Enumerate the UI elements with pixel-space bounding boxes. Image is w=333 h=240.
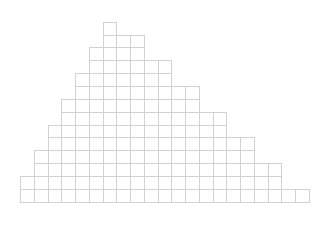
grid-cell [89, 176, 104, 190]
grid-cell [61, 176, 76, 190]
grid-cell [116, 150, 131, 164]
grid-cell [144, 150, 159, 164]
grid-cell [199, 112, 214, 126]
grid-cell [226, 163, 241, 177]
grid-cell [103, 189, 118, 203]
grid-cell [158, 150, 173, 164]
grid-cell [48, 176, 63, 190]
grid-cell [213, 189, 228, 203]
grid-cell [171, 99, 186, 113]
grid-cell [89, 137, 104, 151]
grid-cell [158, 60, 173, 74]
grid-cell [75, 125, 90, 139]
grid-cell [254, 189, 269, 203]
grid-cell [61, 125, 76, 139]
grid-cell [130, 73, 145, 87]
grid-cell [171, 137, 186, 151]
grid-cell [171, 189, 186, 203]
grid-cell [240, 137, 255, 151]
grid-cell [75, 137, 90, 151]
grid-cell [281, 189, 296, 203]
grid-cell [254, 176, 269, 190]
grid-cell [34, 150, 49, 164]
grid-cell [116, 189, 131, 203]
grid-cell [75, 86, 90, 100]
grid-cell [144, 99, 159, 113]
grid-cell [89, 112, 104, 126]
grid-cell [158, 163, 173, 177]
grid-cell [144, 137, 159, 151]
grid-cell [130, 112, 145, 126]
grid-cell [171, 86, 186, 100]
grid-cell [61, 189, 76, 203]
grid-cell [130, 99, 145, 113]
grid-cell [268, 163, 283, 177]
grid-cell [295, 189, 310, 203]
grid-cell [240, 150, 255, 164]
grid-cell [103, 163, 118, 177]
grid-cell [75, 99, 90, 113]
grid-cell [48, 137, 63, 151]
grid-cell [213, 163, 228, 177]
grid-cell [144, 86, 159, 100]
grid-cell [130, 163, 145, 177]
grid-cell [103, 112, 118, 126]
grid-cell [240, 176, 255, 190]
grid-cell [116, 112, 131, 126]
grid-cell [48, 163, 63, 177]
grid-cell [116, 125, 131, 139]
grid-cell [75, 112, 90, 126]
grid-cell [116, 60, 131, 74]
grid-cell [89, 86, 104, 100]
grid-cell [116, 137, 131, 151]
grid-cell [158, 99, 173, 113]
grid-cell [199, 163, 214, 177]
grid-cell [185, 150, 200, 164]
grid-cell [185, 125, 200, 139]
grid-cell [158, 125, 173, 139]
grid-cell [158, 176, 173, 190]
grid-cell [34, 189, 49, 203]
grid-cell [116, 176, 131, 190]
grid-cell [61, 163, 76, 177]
grid-cell [20, 189, 35, 203]
grid-cell [103, 22, 118, 36]
grid-cell [116, 86, 131, 100]
grid-cell [199, 137, 214, 151]
grid-cell [171, 163, 186, 177]
grid-cell [34, 176, 49, 190]
grid-cell [116, 35, 131, 49]
grid-cell [75, 163, 90, 177]
grid-cell [268, 176, 283, 190]
grid-cell [268, 189, 283, 203]
grid-cell [185, 137, 200, 151]
grid-cell [144, 112, 159, 126]
grid-cell [103, 86, 118, 100]
grid-cell [144, 73, 159, 87]
grid-cell [89, 163, 104, 177]
grid-cell [240, 189, 255, 203]
grid-cell [171, 150, 186, 164]
grid-cell [213, 150, 228, 164]
grid-cell [75, 73, 90, 87]
grid-cell [89, 99, 104, 113]
grid-cell [103, 99, 118, 113]
grid-cell [75, 150, 90, 164]
grid-cell [116, 163, 131, 177]
grid-cell [103, 176, 118, 190]
grid-cell [158, 112, 173, 126]
grid-cell [185, 112, 200, 126]
grid-cell [226, 137, 241, 151]
grid-cell [226, 176, 241, 190]
grid-cell [144, 176, 159, 190]
grid-cell [89, 189, 104, 203]
grid-cell [48, 125, 63, 139]
grid-cell [144, 163, 159, 177]
grid-cell [144, 60, 159, 74]
grid-cell [213, 137, 228, 151]
grid-cell [213, 176, 228, 190]
grid-cell [116, 47, 131, 61]
grid-cell [130, 189, 145, 203]
grid-cell [48, 189, 63, 203]
grid-cell [89, 47, 104, 61]
